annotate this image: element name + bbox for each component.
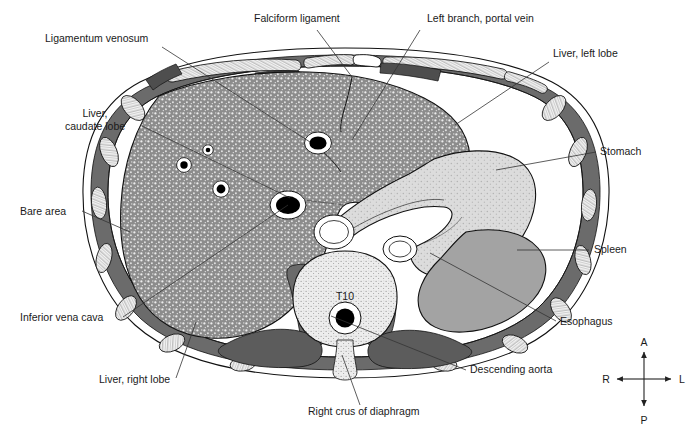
label-esophagus: Esophagus	[560, 315, 613, 327]
label-liver-right-lobe: Liver, right lobe	[99, 373, 170, 385]
portal-vein-lumen	[309, 136, 326, 149]
hepatic-vessel-lumen	[180, 161, 187, 168]
sternum-xiphoid	[353, 55, 381, 67]
compass-label-left: L	[679, 373, 685, 385]
label-vertebra-t10: T10	[336, 290, 354, 302]
torso-section	[83, 48, 609, 380]
anatomical-cross-section-figure: Ligamentum venosum Falciform ligament Le…	[0, 0, 697, 434]
label-right-crus-of-diaphragm: Right crus of diaphragm	[308, 405, 420, 417]
hepatic-vessel-lumen	[206, 148, 211, 153]
label-liver-caudate-lobe-line2: caudate lobe	[65, 120, 125, 132]
label-spleen: Spleen	[594, 243, 627, 255]
label-descending-aorta: Descending aorta	[470, 363, 552, 375]
label-bare-area: Bare area	[20, 205, 66, 217]
label-stomach: Stomach	[600, 145, 642, 157]
label-inferior-vena-cava: Inferior vena cava	[20, 311, 104, 323]
hepatic-vessel-lumen	[217, 185, 226, 194]
label-ligamentum-venosum: Ligamentum venosum	[45, 32, 149, 44]
esophagus	[383, 236, 417, 262]
compass-label-right: R	[602, 373, 610, 385]
spinous-process	[333, 340, 357, 380]
label-liver-left-lobe: Liver, left lobe	[553, 47, 618, 59]
descending-aorta	[314, 215, 354, 249]
label-left-branch-portal-vein: Left branch, portal vein	[427, 12, 534, 24]
compass-label-anterior: A	[640, 336, 647, 348]
compass-label-posterior: P	[640, 414, 647, 426]
label-falciform-ligament: Falciform ligament	[254, 12, 340, 24]
portal-vein-left-branch	[305, 132, 332, 154]
label-liver-caudate-lobe-line1: Liver,	[82, 107, 107, 119]
